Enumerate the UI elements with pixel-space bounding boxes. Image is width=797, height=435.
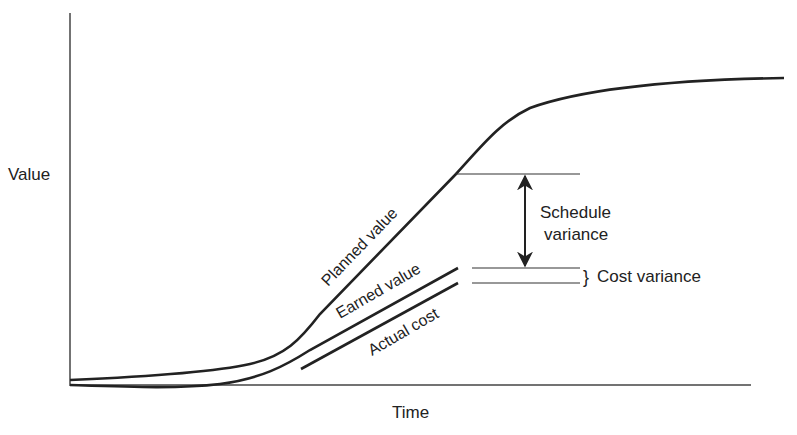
planned-value-curve [70, 78, 784, 380]
schedule-variance-label-line2: variance [544, 225, 608, 244]
x-axis-label: Time [392, 403, 429, 422]
schedule-variance-label-line1: Schedule [540, 203, 611, 222]
cost-variance-brace: } [583, 267, 589, 287]
y-axis-label: Value [8, 165, 50, 184]
cost-variance-label: Cost variance [597, 267, 701, 286]
earned-value-chart: Value Time Planned value Earned value Ac… [0, 0, 797, 435]
